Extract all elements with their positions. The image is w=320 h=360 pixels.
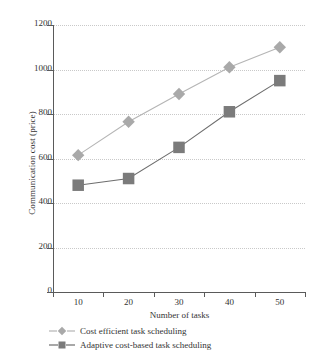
- data-point-square: [173, 142, 185, 154]
- data-point-diamond: [223, 61, 235, 73]
- legend-label: Cost efficient task scheduling: [76, 326, 187, 336]
- chart-legend: Cost efficient task scheduling Adaptive …: [48, 324, 211, 352]
- data-point-square: [224, 106, 236, 118]
- legend-square-icon: [48, 338, 76, 352]
- x-axis-title: Number of tasks: [53, 310, 306, 320]
- legend-diamond-icon: [48, 324, 76, 338]
- chart-series-layer: [0, 0, 320, 360]
- data-point-diamond: [274, 41, 286, 53]
- legend-label: Adaptive cost-based task scheduling: [76, 340, 211, 350]
- data-point-diamond: [72, 149, 84, 161]
- chart-figure: Communication cost (price) 0200400600800…: [0, 0, 320, 360]
- data-point-diamond: [122, 116, 134, 128]
- legend-item-adaptive-cost-based: Adaptive cost-based task scheduling: [48, 338, 211, 352]
- data-point-square: [123, 173, 135, 185]
- data-point-square: [274, 75, 286, 87]
- series-line: [78, 47, 280, 155]
- legend-item-cost-efficient: Cost efficient task scheduling: [48, 324, 211, 338]
- data-point-diamond: [173, 88, 185, 100]
- data-point-square: [72, 179, 84, 191]
